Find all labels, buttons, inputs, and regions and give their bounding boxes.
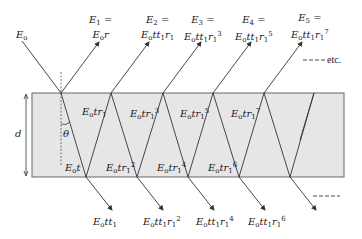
inside-up-label-3: Eotr15 (180, 106, 209, 123)
transmitted-label-3: Eott1r14 (196, 214, 234, 231)
inside-down-label-1: Eot (65, 162, 81, 177)
incident-label: Eo (16, 29, 28, 44)
inside-down-label-3: Eotr14 (157, 160, 186, 177)
thin-film-diagram: Eo E1 =Eor E2 =Eott1r1 E3 =Eott1r13 E4 =… (0, 0, 362, 239)
inside-down-label-2: Eotr12 (106, 160, 135, 177)
transmitted-rays (86, 177, 316, 210)
transmitted-label-4: Eott1r16 (248, 214, 286, 231)
incident-ray (22, 41, 61, 93)
inside-down-label-4: Eotr16 (208, 160, 237, 177)
etc-label: etc. (327, 54, 341, 65)
angle-label: θ (63, 128, 69, 139)
reflected-label-5: E5 =Eott1r17 (291, 12, 329, 44)
reflected-label-4: E4 =Eott1r15 (235, 14, 273, 46)
inside-up-label-1: Eotr1 (82, 106, 107, 121)
transmitted-label-2: Eott1r12 (143, 214, 181, 231)
reflected-label-1: E1 =Eor (89, 14, 112, 44)
thickness-label: d (15, 128, 21, 139)
reflected-label-2: E2 =Eott1r1 (141, 14, 174, 44)
inside-up-label-2: Eotr13 (130, 106, 159, 123)
reflected-rays (61, 42, 302, 93)
reflected-label-3: E3 =Eott1r13 (184, 14, 222, 46)
inside-up-label-4: Eotr17 (231, 106, 260, 123)
transmitted-label-1: Eott1 (93, 216, 117, 231)
